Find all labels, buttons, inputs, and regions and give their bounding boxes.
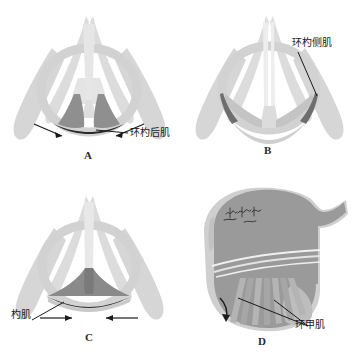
panel-c-label: 杓肌 <box>11 310 31 320</box>
leader-line-c <box>32 302 64 320</box>
panel-d-letter: D <box>258 335 266 347</box>
panel-b-letter: B <box>264 144 272 156</box>
vocal-process-column <box>84 202 94 270</box>
panel-c: C 杓肌 <box>0 180 179 359</box>
arrow-right-inward <box>106 315 138 321</box>
panel-d-illustration <box>180 180 359 359</box>
panel-a: A 环杓后肌 <box>0 0 179 179</box>
panel-d-label: 环甲肌 <box>295 320 325 330</box>
panel-c-letter: C <box>85 331 93 343</box>
anatomy-figure: A 环杓后肌 <box>0 0 359 359</box>
panel-a-label: 环杓后肌 <box>130 128 170 138</box>
arrow-left-inward <box>40 315 72 321</box>
panel-b-label: 环杓侧肌 <box>292 38 332 48</box>
panel-b: B 环杓侧肌 <box>180 0 359 179</box>
thyroid-cartilage-lamina <box>209 190 347 284</box>
panel-d: D 环甲肌 <box>180 180 359 359</box>
panel-a-letter: A <box>84 149 92 161</box>
